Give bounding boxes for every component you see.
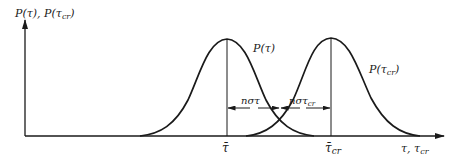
curve-label-p-tau-cr: P(τcr) xyxy=(368,63,399,77)
x-axis-label: τ, τcr xyxy=(401,142,430,156)
y-axis-label: P(τ), P(τcr) xyxy=(14,7,74,21)
dimension-label-n-sigma-tau: nστ xyxy=(241,95,260,106)
tick-label-tau-mean: τ̄ xyxy=(222,141,229,155)
dimension-label-n-sigma-tau-cr: nστcr xyxy=(289,95,316,108)
distribution-diagram: P(τ), P(τcr) P(τ) P(τcr) nστ nστcr τ̄ τ̄… xyxy=(0,0,455,162)
tick-label-tau-cr-mean: τ̄cr xyxy=(325,141,342,156)
curve-label-p-tau: P(τ) xyxy=(252,42,275,55)
